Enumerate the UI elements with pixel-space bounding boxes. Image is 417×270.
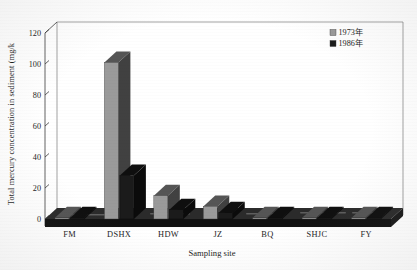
x-tick-label-dshx: DSHX [107,230,131,239]
y-axis-title: Total mercury concentration in sediment … [7,42,16,205]
plot-3d-frame [45,22,403,215]
x-axis-title: Sampling site [188,248,235,258]
x-tick-label-fm: FM [63,230,76,239]
x-tick-label-shjc: SHJC [306,230,327,239]
legend-swatch-1973 [330,30,336,36]
y-tick-label: 100 [29,60,41,69]
y-tick-label: 60 [33,122,41,131]
x-tick-label-jz: JZ [213,230,222,239]
y-tick-label: 0 [37,215,41,224]
y-tick-label: 80 [33,91,41,100]
y-tick-label: 120 [29,29,41,38]
y-axis-tick-labels: 020406080100120 [29,29,41,224]
x-tick-label-bq: BQ [261,230,273,239]
mercury-concentration-bar-chart: 020406080100120 FMDSHXHDWJZBQSHJCFY Samp… [0,0,417,270]
legend-label-1986: 1986年 [339,38,363,48]
legend-label-1973: 1973年 [339,27,363,37]
y-tick-label: 20 [33,184,41,193]
bar-1986-dshx [120,165,146,219]
x-axis-category-labels: FMDSHXHDWJZBQSHJCFY [63,230,372,239]
legend-swatch-1986 [330,41,336,47]
x-tick-label-hdw: HDW [158,230,179,239]
y-tick-label: 40 [33,153,41,162]
x-tick-label-fy: FY [361,230,372,239]
y-axis-ticks [45,30,49,220]
y-axis: 020406080100120 [29,29,49,226]
chart-canvas: 020406080100120 FMDSHXHDWJZBQSHJCFY Samp… [0,0,417,270]
